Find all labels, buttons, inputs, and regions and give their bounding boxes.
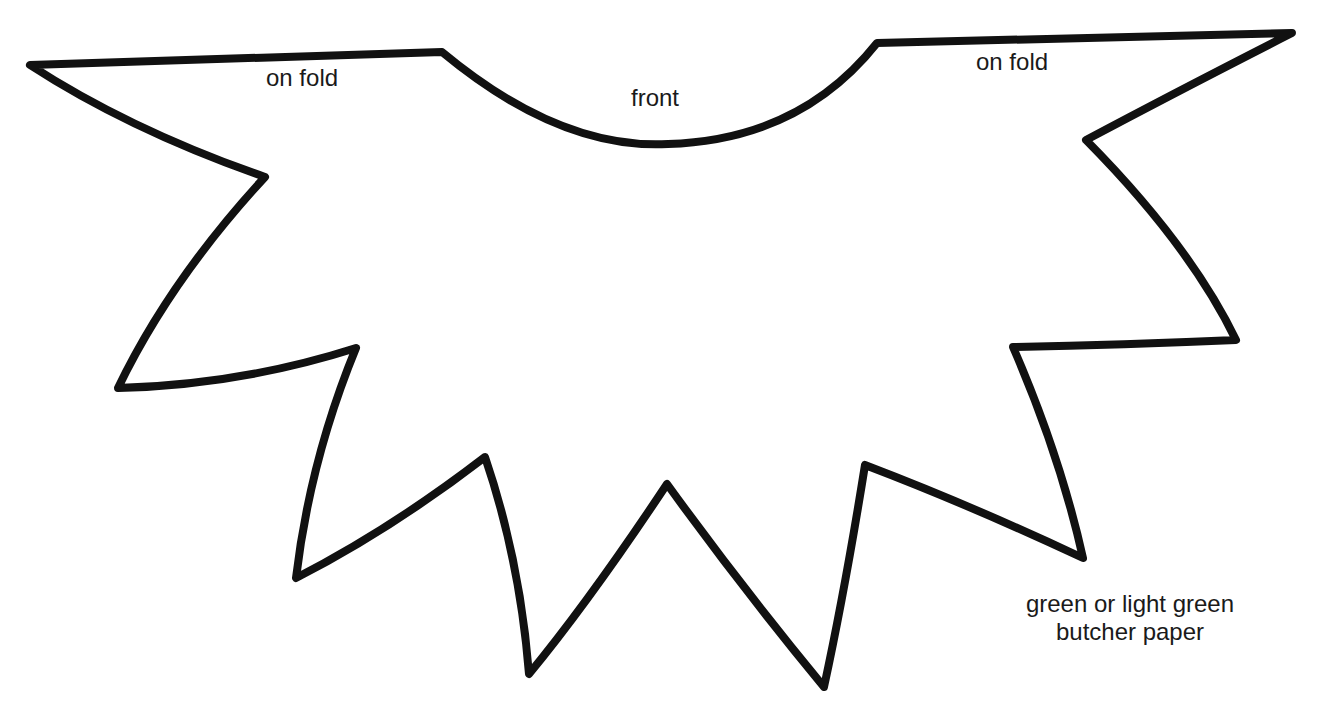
front-label: front: [631, 84, 679, 112]
material-note-line1: green or light green: [1010, 590, 1250, 618]
material-note-line2: butcher paper: [1010, 618, 1250, 646]
on-fold-label-left: on fold: [266, 64, 338, 92]
material-note: green or light green butcher paper: [1010, 590, 1250, 646]
cut-line: [30, 33, 1292, 687]
on-fold-label-right: on fold: [976, 48, 1048, 76]
